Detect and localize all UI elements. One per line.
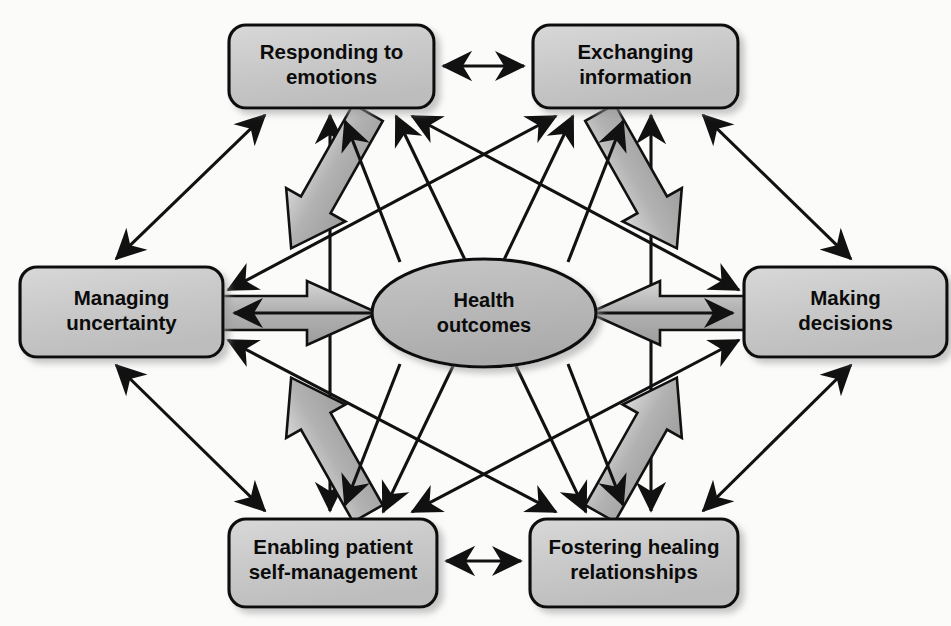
diagram-canvas: Health outcomes Responding to emotions E… bbox=[0, 0, 951, 626]
fostering-healing-relationships-label-line1: Fostering healing bbox=[549, 535, 720, 558]
making-decisions-label-line2: decisions bbox=[798, 311, 893, 334]
exchanging-information-label-line2: information bbox=[579, 65, 692, 88]
enabling-patient-self-management-label-line1: Enabling patient bbox=[253, 535, 413, 558]
node-making-decisions[interactable]: Making decisions bbox=[744, 267, 947, 357]
health-outcomes-label-line1: Health bbox=[453, 289, 514, 311]
health-outcomes-ellipse bbox=[372, 259, 596, 367]
node-exchanging-information[interactable]: Exchanging information bbox=[533, 25, 738, 108]
diagram-svg: Health outcomes Responding to emotions E… bbox=[0, 0, 951, 626]
node-enabling-patient-self-management[interactable]: Enabling patient self-management bbox=[229, 519, 437, 607]
responding-to-emotions-label-line2: emotions bbox=[286, 65, 377, 88]
node-managing-uncertainty[interactable]: Managing uncertainty bbox=[20, 267, 223, 357]
making-decisions-label-line1: Making bbox=[810, 286, 881, 309]
enabling-patient-self-management-label-line2: self-management bbox=[249, 560, 418, 583]
node-responding-to-emotions[interactable]: Responding to emotions bbox=[229, 25, 434, 108]
health-outcomes-label-line2: outcomes bbox=[437, 314, 531, 336]
node-fostering-healing-relationships[interactable]: Fostering healing relationships bbox=[530, 519, 738, 607]
managing-uncertainty-label-line2: uncertainty bbox=[66, 311, 177, 334]
managing-uncertainty-label-line1: Managing bbox=[74, 286, 170, 309]
responding-to-emotions-label-line1: Responding to bbox=[260, 40, 403, 63]
fostering-healing-relationships-label-line2: relationships bbox=[570, 560, 698, 583]
node-health-outcomes[interactable]: Health outcomes bbox=[372, 259, 596, 367]
exchanging-information-label-line1: Exchanging bbox=[577, 40, 693, 63]
